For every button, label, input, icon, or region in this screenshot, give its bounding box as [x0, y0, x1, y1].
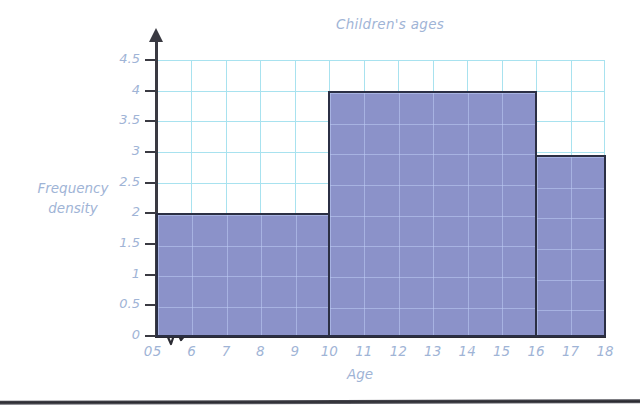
y-axis-tick: [145, 182, 156, 184]
chart-title-text: Children's ages: [336, 16, 444, 32]
y-axis-tick: [145, 274, 156, 276]
histogram-bar: [156, 213, 330, 337]
x-axis-tick-label: 10: [312, 343, 346, 359]
y-axis-tick-label: 3: [100, 143, 140, 158]
histogram-screenshot: Children's ages 00.511.522.533.544.5 056…: [0, 0, 640, 416]
y-axis-tick-label: 1.5: [100, 235, 140, 250]
y-axis-tick-label: 1: [100, 266, 140, 281]
y-axis-title-line: Frequency: [18, 178, 128, 198]
x-axis-tick-label: 13: [416, 343, 450, 359]
histogram-bar: [328, 91, 537, 337]
y-axis-tick-label: 0: [100, 327, 140, 342]
y-axis-tick-label: 0.5: [100, 296, 140, 311]
y-axis-tick-label: 4: [100, 82, 140, 97]
y-axis-tick: [145, 120, 156, 122]
y-axis-tick: [145, 335, 156, 337]
x-axis-title: Age: [300, 366, 420, 382]
x-axis-tick-label: 12: [381, 343, 415, 359]
x-axis-tick-label: 8: [243, 343, 277, 359]
chart-title: Children's ages: [0, 16, 640, 32]
y-axis-tick: [145, 212, 156, 214]
y-axis-title: Frequencydensity: [18, 178, 128, 218]
histogram-bar: [535, 155, 606, 337]
x-axis-tick-label: 14: [450, 343, 484, 359]
x-axis-tick-label: 18: [588, 343, 622, 359]
x-axis-tick-label: 15: [485, 343, 519, 359]
x-axis-tick-label: 7: [209, 343, 243, 359]
page-divider-rule: [0, 399, 640, 404]
x-axis-tick-label: 11: [347, 343, 381, 359]
x-axis-tick-label: 17: [554, 343, 588, 359]
y-axis-title-line: density: [18, 198, 128, 218]
y-axis-tick: [145, 243, 156, 245]
x-axis-tick-label: 9: [278, 343, 312, 359]
y-axis-tick: [145, 59, 156, 61]
y-axis-tick: [145, 151, 156, 153]
x-axis-tick-label: 16: [519, 343, 553, 359]
y-axis-tick-label: 4.5: [100, 51, 140, 66]
y-axis-arrow-icon: [149, 28, 163, 42]
y-axis-tick: [145, 90, 156, 92]
y-axis-tick-label: 3.5: [100, 112, 140, 127]
y-axis-tick: [145, 304, 156, 306]
